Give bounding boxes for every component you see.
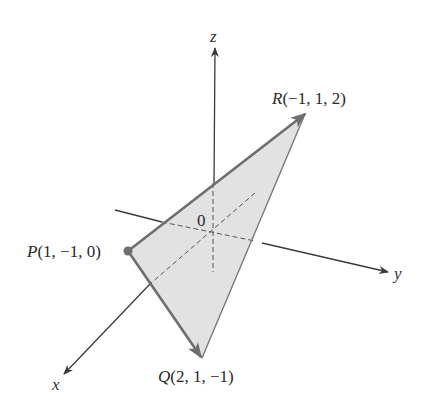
x-axis-label: x — [52, 376, 60, 393]
point-r-label: R(−1, 1, 2) — [272, 90, 346, 107]
triangle-pqr — [128, 114, 305, 358]
point-p — [124, 247, 133, 256]
z-axis-positive — [214, 48, 215, 183]
origin-label: 0 — [197, 212, 206, 229]
point-q-coords: (2, 1, −1) — [170, 367, 233, 386]
point-p-label: P(1, −1, 0) — [27, 243, 101, 260]
point-p-name: P — [27, 242, 37, 261]
y-axis-negative — [115, 210, 162, 222]
point-p-coords: (1, −1, 0) — [37, 242, 100, 261]
y-axis-label: y — [394, 265, 402, 282]
point-r-name: R — [272, 89, 282, 108]
x-axis-positive — [64, 284, 150, 374]
point-q-name: Q — [158, 367, 170, 386]
z-axis-label: z — [210, 28, 217, 45]
point-q-label: Q(2, 1, −1) — [158, 368, 234, 385]
point-r-coords: (−1, 1, 2) — [282, 89, 345, 108]
y-axis-positive — [262, 243, 388, 272]
triangle-vector-diagram — [0, 0, 430, 416]
